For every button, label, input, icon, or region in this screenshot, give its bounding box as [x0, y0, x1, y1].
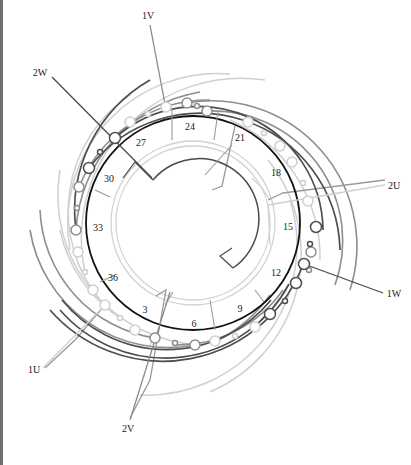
- slot-label: 21: [235, 132, 245, 143]
- terminal-label-2V: 2V: [122, 423, 135, 434]
- slot-label: 3: [143, 304, 148, 315]
- terminal-label-2W: 2W: [33, 67, 48, 78]
- lead-1U: [43, 305, 105, 368]
- slot-label: 18: [271, 167, 281, 178]
- slot-label: 6: [192, 318, 197, 329]
- slot-label: 12: [271, 267, 281, 278]
- slot-label: 36: [108, 272, 118, 283]
- winding-diagram: 24 21 18 15 12 9 6 3 36 33 30 27 1V 2W 2…: [0, 0, 411, 465]
- lead-1W: [304, 264, 383, 293]
- terminal-label-1U: 1U: [28, 364, 41, 375]
- slot-label: 9: [238, 303, 243, 314]
- slot-label: 27: [136, 137, 146, 148]
- terminal-label-1W: 1W: [387, 288, 402, 299]
- terminal-label-2U: 2U: [388, 180, 401, 191]
- slot-number-labels: 24 21 18 15 12 9 6 3 36 33 30 27: [93, 121, 293, 329]
- terminal-label-1V: 1V: [142, 10, 155, 21]
- inner-light-rings: [111, 141, 275, 345]
- slot-label: 24: [185, 121, 195, 132]
- slot-label: 30: [104, 173, 114, 184]
- lead-2V: [130, 292, 170, 420]
- slot-label: 33: [93, 222, 103, 233]
- winding-diagram-canvas: 24 21 18 15 12 9 6 3 36 33 30 27 1V 2W 2…: [0, 0, 411, 465]
- lead-1V: [150, 25, 165, 104]
- slot-label: 15: [283, 221, 293, 232]
